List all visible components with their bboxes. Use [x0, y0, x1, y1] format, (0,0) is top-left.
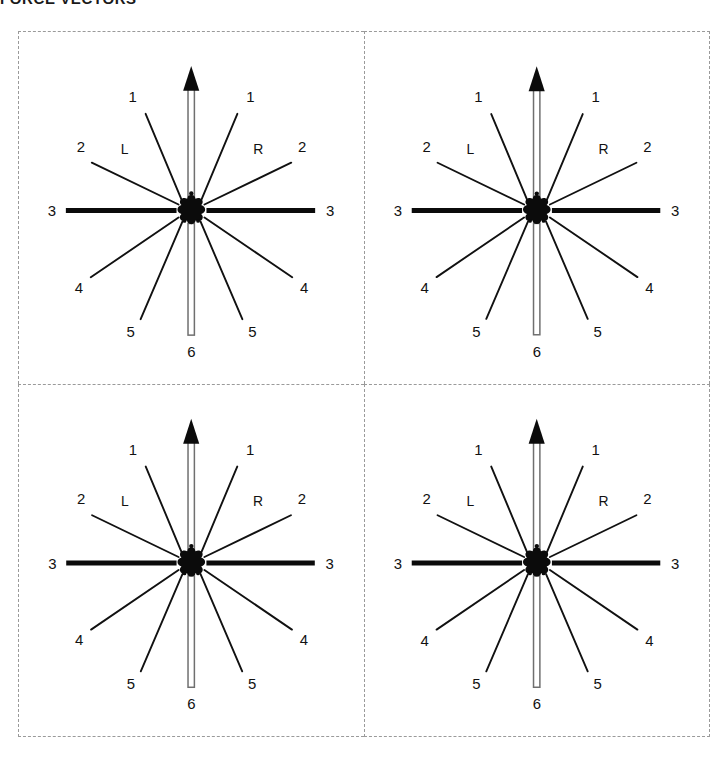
rosette-diagram — [365, 385, 709, 736]
page-title: FORCE VECTORS — [0, 0, 400, 8]
panel-bottom-right — [364, 384, 710, 737]
rosette-diagram — [365, 32, 709, 384]
rosette-diagram — [19, 32, 364, 384]
panel-top-right — [364, 31, 710, 384]
panel-bottom-left — [18, 384, 364, 737]
rosette-diagram — [19, 385, 364, 736]
figure-grid — [18, 31, 710, 737]
panel-top-left — [18, 31, 364, 384]
